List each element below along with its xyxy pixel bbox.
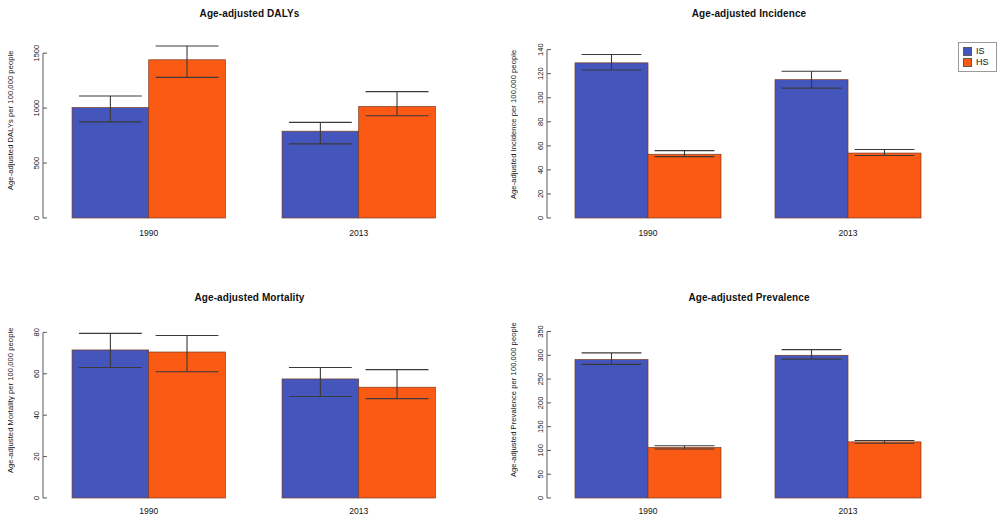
y-tick-label: 20 bbox=[32, 452, 41, 460]
panel-incidence: Age-adjusted IncidenceAge-adjusted Incid… bbox=[499, 0, 999, 277]
y-tick-label: 150 bbox=[536, 420, 545, 433]
x-category-label: 1990 bbox=[139, 506, 158, 516]
bar-hs-1990 bbox=[149, 352, 226, 498]
y-tick-label: 1000 bbox=[32, 100, 41, 117]
x-category-label: 2013 bbox=[839, 506, 858, 516]
y-tick-label: 140 bbox=[536, 43, 545, 56]
y-tick-label: 100 bbox=[536, 91, 545, 104]
y-tick-label: 40 bbox=[536, 166, 545, 174]
bar-is-1990 bbox=[575, 360, 648, 498]
y-tick-label: 60 bbox=[536, 142, 545, 150]
y-tick-label: 80 bbox=[536, 118, 545, 126]
y-tick-label: 60 bbox=[32, 370, 41, 378]
plot-area: 05010015020025030035019902013 bbox=[499, 277, 998, 521]
legend-swatch-icon bbox=[963, 47, 972, 56]
bar-hs-1990 bbox=[149, 60, 226, 218]
legend-label: HS bbox=[976, 57, 989, 68]
y-tick-label: 50 bbox=[536, 470, 545, 478]
y-tick-label: 350 bbox=[536, 325, 545, 338]
x-category-label: 1990 bbox=[639, 228, 658, 238]
plot-area: 02040608019902013 bbox=[0, 277, 499, 521]
x-category-label: 2013 bbox=[349, 506, 368, 516]
y-tick-label: 0 bbox=[536, 216, 545, 220]
y-tick-label: 0 bbox=[536, 496, 545, 500]
y-tick-label: 100 bbox=[536, 444, 545, 457]
bar-hs-1990 bbox=[648, 448, 721, 498]
bar-is-1990 bbox=[72, 108, 149, 218]
y-tick-label: 120 bbox=[536, 67, 545, 80]
bar-is-2013 bbox=[775, 80, 848, 218]
y-tick-label: 1500 bbox=[32, 45, 41, 62]
legend-swatch-icon bbox=[963, 58, 972, 67]
y-tick-label: 500 bbox=[32, 157, 41, 170]
y-tick-label: 0 bbox=[32, 496, 41, 500]
legend-item-is: IS bbox=[963, 46, 989, 57]
plot-area: 02040608010012014019902013 bbox=[499, 0, 998, 277]
panel-dalys: Age-adjusted DALYsAge-adjusted DALYs per… bbox=[0, 0, 499, 277]
bar-hs-2013 bbox=[359, 387, 436, 498]
legend: ISHS bbox=[958, 42, 997, 72]
y-tick-label: 40 bbox=[32, 411, 41, 419]
x-category-label: 1990 bbox=[639, 506, 658, 516]
y-tick-label: 300 bbox=[536, 349, 545, 362]
bar-hs-1990 bbox=[648, 154, 721, 218]
bar-hs-2013 bbox=[848, 153, 921, 218]
bar-hs-2013 bbox=[359, 106, 436, 218]
figure-panel-grid: Age-adjusted DALYsAge-adjusted DALYs per… bbox=[0, 0, 999, 521]
bar-is-2013 bbox=[775, 355, 848, 498]
y-tick-label: 250 bbox=[536, 373, 545, 386]
plot-area: 05001000150019902013 bbox=[0, 0, 499, 277]
bar-is-1990 bbox=[575, 63, 648, 218]
x-category-label: 2013 bbox=[839, 228, 858, 238]
bar-is-1990 bbox=[72, 350, 149, 498]
panel-mortality: Age-adjusted MortalityAge-adjusted Morta… bbox=[0, 277, 499, 521]
x-category-label: 1990 bbox=[139, 228, 158, 238]
legend-item-hs: HS bbox=[963, 57, 989, 68]
x-category-label: 2013 bbox=[349, 228, 368, 238]
legend-label: IS bbox=[976, 46, 985, 57]
panel-prevalence: Age-adjusted PrevalenceAge-adjusted Prev… bbox=[499, 277, 999, 521]
y-tick-label: 0 bbox=[32, 216, 41, 220]
bar-hs-2013 bbox=[848, 442, 921, 498]
y-tick-label: 80 bbox=[32, 328, 41, 336]
y-tick-label: 20 bbox=[536, 190, 545, 198]
y-tick-label: 200 bbox=[536, 397, 545, 410]
